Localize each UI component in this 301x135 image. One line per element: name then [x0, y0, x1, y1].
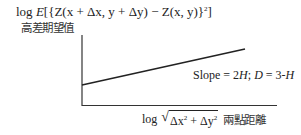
sqrt-icon: √: [161, 110, 169, 124]
radicand-dx: Δx: [170, 114, 184, 128]
slope-text: Slope = 2: [193, 68, 239, 82]
y-axis-label-chinese: 高差期望值: [21, 19, 74, 35]
radicand-dy: Δy: [200, 114, 214, 128]
dimension-eq: = 3-: [263, 68, 286, 82]
radicand-dy-exp: 2: [214, 114, 218, 122]
y-axis-formula: log E[{Z(x + Δx, y + Δy) − Z(x, y)}2]: [16, 4, 212, 20]
formula-expectation: E: [36, 4, 44, 19]
radicand-plus: +: [187, 114, 200, 128]
dimension-H: H: [286, 68, 295, 82]
x-axis-label-chinese: 兩點距離: [223, 111, 265, 127]
formula-log: log: [16, 4, 36, 19]
x-axis-label: log √ Δx2 + Δy2 兩點距離: [142, 110, 265, 128]
dimension-D: D: [254, 68, 263, 82]
formula-close: ]: [208, 4, 212, 19]
radicand: Δx2 + Δy2: [169, 110, 218, 128]
slope-H: H: [239, 68, 248, 82]
slope-annotation: Slope = 2H; D = 3-H: [193, 68, 294, 83]
x-log: log: [142, 112, 157, 127]
sqrt-expression: √ Δx2 + Δy2: [161, 110, 218, 128]
formula-body: [{Z(x + Δx, y + Δy) − Z(x, y)}: [44, 4, 204, 19]
